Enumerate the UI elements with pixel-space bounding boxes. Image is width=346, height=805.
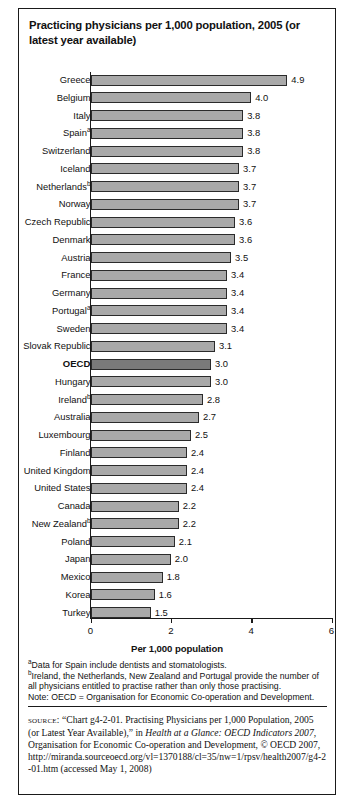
chart-row: Switzerland3.8 (19, 143, 335, 161)
category-label: Portugala (0, 305, 91, 316)
bar-value-label: 2.2 (183, 518, 196, 529)
category-label: United Kingdom (0, 465, 91, 476)
chart-row: Norway3.7 (19, 196, 335, 214)
figure-container: Practicing physicians per 1,000 populati… (18, 8, 336, 795)
chart-row: Turkey1.5 (19, 605, 335, 623)
bar (91, 430, 191, 441)
category-label: Iceland (0, 163, 91, 174)
category-label-text: New Zealand (32, 518, 87, 529)
source-label: source: (28, 715, 60, 725)
category-label: Switzerland (0, 145, 91, 156)
category-label-text: Japan (65, 553, 91, 564)
bar-value-label: 3.6 (239, 234, 252, 245)
footnote-a: aData for Spain include dentists and sto… (28, 660, 328, 671)
category-label: Denmark (0, 234, 91, 245)
category-label: Italy (0, 110, 91, 121)
plot-area: Greece4.9Belgium4.0Italy3.8Spaina3.8Swit… (19, 72, 335, 617)
bar (91, 163, 240, 174)
source-divider (28, 706, 327, 707)
category-label-text: Denmark (52, 234, 90, 245)
bar-value-label: 1.8 (167, 571, 180, 582)
bar (91, 217, 236, 228)
bar-value-label: 3.4 (231, 323, 244, 334)
category-label-text: Austria (61, 252, 90, 263)
chart-row: Greece4.9 (19, 72, 335, 90)
bar-value-label: 3.8 (247, 127, 260, 138)
bar (91, 270, 228, 281)
chart-row: Czech Republic3.6 (19, 214, 335, 232)
category-label: Spaina (0, 127, 91, 138)
category-label-text: Canada (58, 500, 91, 511)
chart-row: Poland2.1 (19, 534, 335, 552)
bar (91, 465, 187, 476)
bar-value-label: 2.0 (175, 553, 188, 564)
chart-row: Hungary3.0 (19, 374, 335, 392)
category-label: Mexico (0, 571, 91, 582)
chart-row: Finland2.4 (19, 445, 335, 463)
category-label: Hungary (0, 376, 91, 387)
bar (91, 75, 288, 86)
chart-row: Japan2.0 (19, 551, 335, 569)
bar (91, 554, 171, 565)
category-label: Austria (0, 252, 91, 263)
category-label: Norway (0, 198, 91, 209)
chart-row: Italy3.8 (19, 108, 335, 126)
chart-row: Austria3.5 (19, 250, 335, 268)
source-part3: (accessed May 1, 2008) (58, 763, 152, 774)
bar-value-label: 4.0 (255, 92, 268, 103)
bar-value-label: 3.8 (247, 145, 260, 156)
category-label-text: Portugal (52, 305, 87, 316)
category-label-text: Finland (60, 447, 91, 458)
x-tick (171, 618, 172, 623)
category-label-text: Ireland (58, 394, 87, 405)
bar-value-label: 2.4 (191, 482, 204, 493)
category-label: Luxembourg (0, 429, 91, 440)
bar (91, 92, 252, 103)
chart-row: Belgium4.0 (19, 90, 335, 108)
chart-title: Practicing physicians per 1,000 populati… (29, 18, 325, 47)
x-tick-label: 4 (239, 625, 263, 636)
category-label-text: Mexico (61, 571, 91, 582)
chart-row: Mexico1.8 (19, 569, 335, 587)
category-label: Canada (0, 500, 91, 511)
category-label-text: OECD (63, 358, 91, 369)
category-label: Sweden (0, 323, 91, 334)
bar-value-label: 3.4 (231, 269, 244, 280)
category-label: Australia (0, 411, 91, 422)
chart-row: Irelandb2.8 (19, 392, 335, 410)
chart-row: Netherlandsb3.7 (19, 179, 335, 197)
x-tick-label: 2 (159, 625, 183, 636)
bar-value-label: 3.7 (243, 181, 256, 192)
chart-row: Spaina3.8 (19, 125, 335, 143)
bar (91, 199, 240, 210)
bar-value-label: 2.5 (195, 429, 208, 440)
category-label-text: Switzerland (42, 145, 90, 156)
chart-row: Portugala3.4 (19, 303, 335, 321)
category-label-text: Netherlands (36, 181, 87, 192)
bar-value-label: 3.6 (239, 216, 252, 227)
chart-row: OECD3.0 (19, 356, 335, 374)
category-label: Czech Republic (0, 216, 91, 227)
category-label-text: Czech Republic (25, 216, 91, 227)
x-axis-title: Per 1,000 population (19, 643, 335, 654)
x-tick-label: 6 (320, 625, 344, 636)
bar-value-label: 2.4 (191, 465, 204, 476)
bar (91, 288, 228, 299)
chart-row: New Zealandb2.2 (19, 516, 335, 534)
bar (91, 447, 187, 458)
bar-value-label: 3.5 (235, 252, 248, 263)
x-tick (91, 618, 92, 623)
category-label: United States (0, 482, 91, 493)
x-tick-label: 0 (79, 625, 103, 636)
category-label-text: Hungary (55, 376, 90, 387)
category-label-text: Luxembourg (38, 429, 90, 440)
category-label-text: Slovak Republic (23, 340, 90, 351)
bar-value-label: 3.0 (215, 358, 228, 369)
bar (91, 341, 216, 352)
category-label: Greece (0, 74, 91, 85)
category-label: Irelandb (0, 394, 91, 405)
bar-value-label: 2.8 (207, 394, 220, 405)
category-label-text: Greece (60, 74, 91, 85)
bar (91, 394, 203, 405)
bar (91, 518, 179, 529)
